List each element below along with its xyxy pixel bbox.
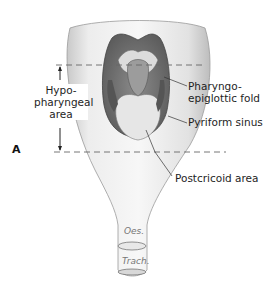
pharyngo-epiglottic-line-2: epiglottic fold <box>188 92 260 104</box>
oesophagus-ring <box>118 242 146 250</box>
pyriform-sinus-label: Pyriform sinus <box>188 116 263 128</box>
bracket-label-line-3: area <box>34 108 88 120</box>
trachea-label: Trach. <box>122 256 150 266</box>
pharyngo-epiglottic-line-1: Pharyngo- <box>188 80 260 92</box>
trachea-ring <box>118 269 146 275</box>
figure-letter: A <box>12 143 21 156</box>
bracket-upper-arrow <box>58 66 62 71</box>
bracket-lower-arrow <box>58 146 62 151</box>
pharyngo-epiglottic-fold-label: Pharyngo- epiglottic fold <box>188 80 260 104</box>
oesophagus-label: Oes. <box>124 226 144 236</box>
hypopharyngeal-area-label: Hypo- pharyngeal area <box>34 84 88 120</box>
anatomical-figure: Hypo- pharyngeal area A Pharyngo- epiglo… <box>0 0 270 289</box>
bracket-label-line-2: pharyngeal <box>34 96 88 108</box>
bracket-label-line-1: Hypo- <box>34 84 88 96</box>
postcricoid-area-label: Postcricoid area <box>175 172 259 184</box>
hypopharynx-illustration <box>0 0 270 289</box>
